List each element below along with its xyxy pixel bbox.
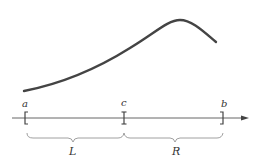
interval-L-label: L — [68, 145, 76, 158]
point-b-label: b — [221, 98, 227, 109]
brace-L — [27, 133, 124, 142]
brace-R — [124, 133, 223, 142]
axis-arrow-icon — [241, 116, 249, 121]
interval-bisection-diagram: a c b L R — [0, 0, 262, 163]
function-curve — [24, 20, 216, 91]
interval-R-label: R — [171, 145, 180, 158]
point-c-label: c — [121, 97, 127, 108]
point-a-label: a — [22, 98, 28, 109]
